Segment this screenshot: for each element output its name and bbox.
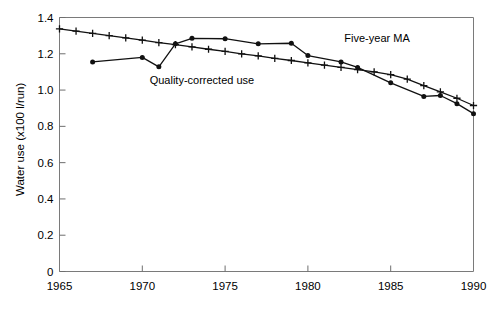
x-tick-label-1980: 1980	[295, 280, 321, 292]
x-tick-label-1990: 1990	[461, 280, 487, 292]
y-tick-label-1.0: 1.0	[38, 84, 54, 96]
x-tick-label-1975: 1975	[212, 280, 238, 292]
y-axis-title: Water use (x100 l/run)	[14, 82, 26, 196]
data-point-marker	[388, 80, 393, 85]
data-point-marker	[339, 59, 344, 64]
data-point-marker	[289, 41, 294, 46]
water-use-line-chart: 00.20.40.60.81.01.21.4 19651970197519801…	[0, 0, 498, 312]
annotation-label-quality-corrected-use: Quality-corrected use	[150, 74, 255, 86]
y-tick-label-0.4: 0.4	[38, 193, 55, 205]
x-tick-label-1965: 1965	[47, 280, 73, 292]
data-point-marker	[223, 36, 228, 41]
data-point-marker	[438, 93, 443, 98]
data-point-marker	[90, 59, 95, 64]
data-point-marker	[140, 55, 145, 60]
y-tick-label-1.2: 1.2	[38, 48, 54, 60]
data-point-marker	[355, 65, 360, 70]
data-point-marker	[156, 64, 161, 69]
annotation-label-five-year-ma: Five-year MA	[344, 32, 410, 44]
y-tick-label-0.2: 0.2	[38, 229, 54, 241]
x-tick-label-1970: 1970	[130, 280, 156, 292]
data-point-marker	[305, 53, 310, 58]
data-point-marker	[173, 41, 178, 46]
data-point-marker	[471, 111, 476, 116]
chart-background	[0, 0, 498, 312]
data-point-marker	[421, 94, 426, 99]
y-tick-label-0.6: 0.6	[38, 157, 54, 169]
y-tick-label-0.8: 0.8	[38, 120, 54, 132]
chart-container: 00.20.40.60.81.01.21.4 19651970197519801…	[0, 0, 498, 312]
data-point-marker	[189, 36, 194, 41]
y-tick-label-1.4: 1.4	[38, 12, 55, 24]
data-point-marker	[454, 101, 459, 106]
y-tick-label-0: 0	[47, 266, 53, 278]
data-point-marker	[256, 41, 261, 46]
x-tick-label-1985: 1985	[378, 280, 404, 292]
